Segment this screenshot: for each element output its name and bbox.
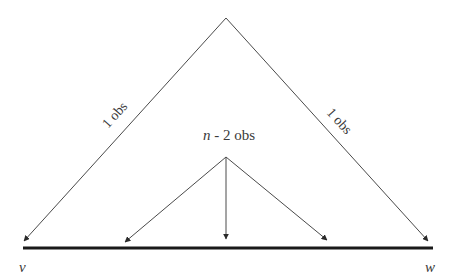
center-label-rest: - 2 obs [210, 127, 255, 143]
edge-apex-to-w [226, 18, 428, 241]
center-label-n: n [203, 127, 211, 143]
right-edge-label: 1 obs [324, 105, 355, 137]
edge-inner-left [125, 157, 226, 242]
edge-apex-to-v [24, 18, 226, 241]
edge-inner-right [226, 157, 327, 240]
left-edge-label: 1 obs [99, 99, 130, 131]
endpoint-v-label: v [19, 259, 26, 275]
endpoint-w-label: w [425, 259, 435, 275]
center-label: n - 2 obs [203, 127, 255, 143]
diagram-canvas: 1 obs 1 obs n - 2 obs v w [0, 0, 451, 279]
